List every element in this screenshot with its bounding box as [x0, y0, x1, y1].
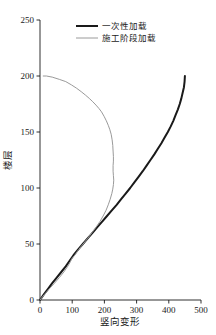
chart-figure: 050100150200250 0100200300400500 一次性加载施工… — [0, 0, 216, 335]
x-tick-label: 500 — [194, 305, 208, 315]
y-tick-label: 0 — [30, 295, 35, 305]
chart-legend: 一次性加载施工阶段加载 — [76, 21, 156, 43]
y-tick-label: 50 — [25, 239, 35, 249]
y-tick-label: 100 — [21, 183, 35, 193]
x-tick-label: 400 — [162, 305, 176, 315]
y-tick-label: 150 — [21, 127, 35, 137]
x-axis-ticks: 0100200300400500 — [38, 300, 209, 315]
y-tick-label: 250 — [21, 15, 35, 25]
x-tick-label: 300 — [130, 305, 144, 315]
x-tick-label: 200 — [98, 305, 112, 315]
y-axis-title: 楼层 — [2, 150, 13, 170]
x-tick-label: 0 — [38, 305, 43, 315]
x-axis-title: 竖向变形 — [100, 316, 140, 327]
legend-label-0: 一次性加载 — [102, 21, 147, 31]
series-line-施工阶段加载 — [40, 76, 114, 300]
y-tick-label: 200 — [21, 71, 35, 81]
x-tick-label: 100 — [65, 305, 79, 315]
y-axis-ticks: 050100150200250 — [21, 15, 41, 305]
legend-label-1: 施工阶段加载 — [102, 33, 156, 43]
chart-series-group — [40, 76, 185, 300]
line-chart: 050100150200250 0100200300400500 一次性加载施工… — [0, 0, 216, 335]
chart-axes — [40, 20, 201, 300]
